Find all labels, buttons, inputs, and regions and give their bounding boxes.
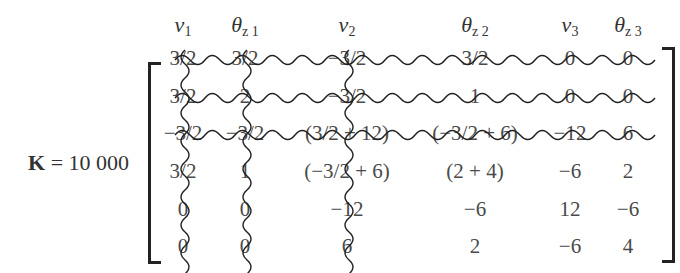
strike-through-waves: [0, 0, 680, 273]
